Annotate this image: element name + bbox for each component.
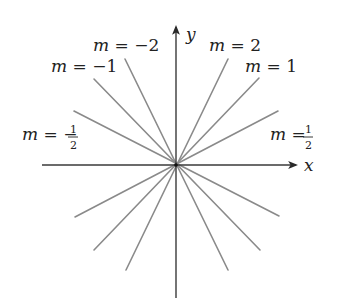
fraction-denominator: 2 [70, 139, 77, 152]
fraction-numerator: 1 [70, 123, 77, 136]
label-m-neg-half: m = − 1 2 [22, 123, 78, 152]
y-axis-label: y [185, 24, 196, 44]
slope-lines-diagram: x y m = −2 m = −1 m = 2 m = 1 m = − 1 2 … [0, 0, 343, 305]
x-axis-label: x [304, 155, 314, 175]
label-m-neg-1: m = −1 [51, 56, 117, 76]
fraction-denominator: 2 [305, 139, 312, 152]
origin-point [174, 163, 178, 167]
label-m-neg-2: m = −2 [93, 35, 159, 55]
fraction-numerator: 1 [305, 123, 312, 136]
label-m-half: m = 1 2 [270, 123, 313, 152]
label-m-2: m = 2 [209, 35, 261, 55]
label-m-1: m = 1 [245, 56, 297, 76]
